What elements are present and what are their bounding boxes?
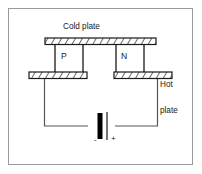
wire-negative-branch [45,79,89,126]
battery-negative-label: - [94,136,97,144]
p-element-label: P [61,52,67,61]
wire-positive-branch [115,79,158,126]
battery-symbol [98,112,108,140]
battery-positive-label: + [111,135,116,143]
hot-plate-label-line1: Hot [160,81,178,90]
hot-plate-left [29,72,87,79]
figure-container: Cold plate Hot plate P N - + [0,0,202,174]
hot-plate-label-line2: plate [160,107,178,116]
p-semiconductor-block [55,44,83,75]
cold-plate-label: Cold plate [63,23,100,32]
hot-plate-label: Hot plate [160,64,178,133]
cold-plate [45,38,156,45]
n-element-label: N [121,52,127,61]
